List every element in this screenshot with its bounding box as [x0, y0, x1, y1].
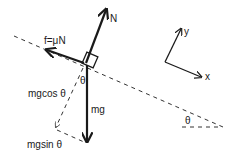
friction-force-label: f=μN [44, 35, 66, 46]
coordinate-axes: y x [165, 26, 210, 82]
y-axis-arrow [165, 29, 181, 62]
incline-line [14, 36, 223, 127]
parallel-component-label: mgsin θ [27, 139, 62, 150]
friction-force-arrow [47, 50, 84, 63]
perpendicular-component-label: mgcos θ [28, 88, 66, 99]
x-axis-label: x [205, 71, 210, 82]
weight-label: mg [91, 104, 105, 115]
normal-force-label: N [110, 13, 117, 24]
x-axis-arrow [165, 62, 201, 77]
incline-angle-label: θ [185, 115, 191, 126]
block-angle-label: θ [80, 75, 86, 86]
normal-force-arrow [86, 10, 106, 63]
diagram-canvas: θ N f=μN mg mgcos θ mgsin θ θ y x [0, 0, 237, 161]
y-axis-label: y [184, 26, 189, 37]
free-body-diagram: θ N f=μN mg mgcos θ mgsin θ θ y x [0, 0, 237, 161]
